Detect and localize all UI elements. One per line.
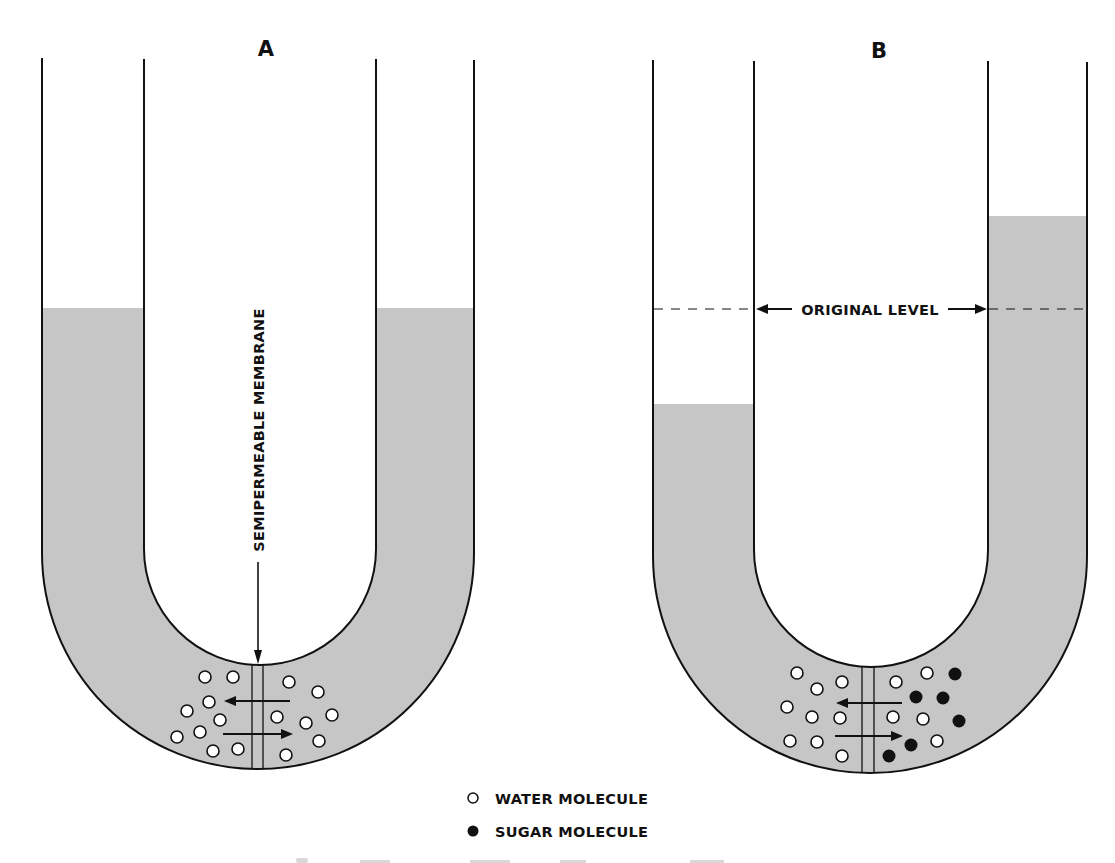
panel-a-label: A [258,37,275,61]
legend: WATER MOLECULE SUGAR MOLECULE [468,791,649,840]
cutoff-caption-fragment [296,858,724,863]
legend-water-label: WATER MOLECULE [495,791,648,807]
liquid-b [653,216,1087,773]
water-molecule-icon [468,793,478,803]
original-level-arrow-left-icon [756,304,768,314]
panel-b: B ORIGINAL LEVEL [653,39,1087,773]
membrane-label: SEMIPERMEABLE MEMBRANE [251,308,267,552]
legend-item-sugar: SUGAR MOLECULE [468,824,649,840]
osmosis-diagram: A SEMIPERMEABLE MEMBRANE [0,0,1115,863]
membrane-pointer-arrowhead-icon [254,650,262,664]
panel-a: A SEMIPERMEABLE MEMBRANE [42,37,474,769]
sugar-molecule-icon [468,826,479,837]
original-level-label: ORIGINAL LEVEL [801,302,939,318]
original-level-arrow-right-icon [975,304,987,314]
panel-b-label: B [871,39,887,63]
tube-b-inner-wall [754,61,988,667]
membrane-label-group: SEMIPERMEABLE MEMBRANE [251,308,267,664]
legend-sugar-label: SUGAR MOLECULE [495,824,648,840]
legend-item-water: WATER MOLECULE [468,791,648,807]
